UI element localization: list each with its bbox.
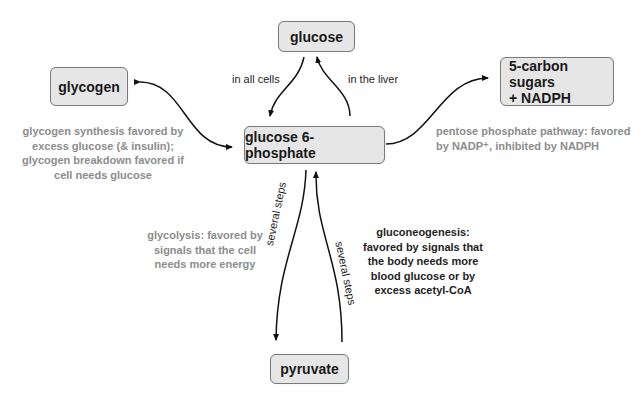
node-glucose: glucose (278, 21, 355, 52)
edge-label-in-the-liver: in the liver (348, 72, 398, 87)
annotation-line: excess acetyl-CoA (358, 283, 488, 298)
annotation-line: favored by signals that (358, 240, 488, 255)
pentose-line-1: 5-carbon sugars (509, 58, 613, 90)
annotation-line: the body needs more (358, 254, 488, 269)
node-pyruvate: pyruvate (270, 354, 349, 384)
node-5-carbon-sugars: 5-carbon sugars + NADPH (500, 57, 614, 106)
annotation-line: by NADP⁺, inhibited by NADPH (436, 139, 636, 154)
annotation-line: gluconeogenesis: (358, 225, 488, 240)
annotation-line: excess glucose (& insulin); (18, 139, 188, 154)
pentose-line-2: + NADPH (509, 90, 571, 106)
annotation-line: needs more energy (145, 257, 265, 272)
annotation-line: cell needs glucose (18, 168, 188, 183)
arrow-glucose-to-g6p (270, 57, 304, 116)
annotation-pentose: pentose phosphate pathway: favored by NA… (436, 124, 636, 153)
annotation-line: blood glucose or by (358, 269, 488, 284)
annotation-line: glycogen synthesis favored by (18, 124, 188, 139)
node-glucose-6-phosphate: glucose 6-phosphate (244, 126, 385, 164)
annotation-glycolysis: glycolysis: favored by signals that the … (145, 228, 265, 272)
annotation-line: glycogen breakdown favored if (18, 153, 188, 168)
annotation-line: signals that the cell (145, 243, 265, 258)
annotation-line: pentose phosphate pathway: favored (436, 124, 636, 139)
annotation-gluconeogenesis: gluconeogenesis: favored by signals that… (358, 225, 488, 298)
arrow-g6p-to-glucose (317, 57, 350, 116)
annotation-glycogen: glycogen synthesis favored by excess glu… (18, 124, 188, 182)
node-glycogen: glycogen (50, 67, 128, 106)
annotation-line: glycolysis: favored by (145, 228, 265, 243)
edge-label-in-all-cells: in all cells (232, 72, 280, 87)
